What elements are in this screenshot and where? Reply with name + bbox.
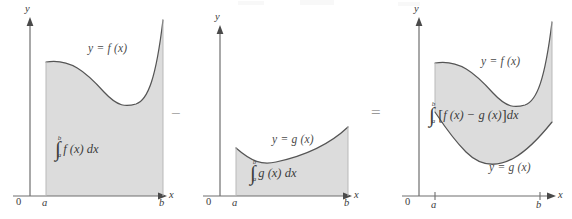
y-axis-arrowhead — [27, 17, 34, 26]
integrand-diff: f (x) − g (x) — [443, 108, 501, 123]
lower-limit: a — [253, 176, 257, 183]
curve-label-f-top: y = f (x) — [481, 55, 520, 67]
tick-label-b: b — [159, 197, 164, 208]
origin-label: 0 — [16, 196, 21, 207]
y-axis-arrowhead — [217, 25, 224, 34]
tick-label-b: b — [344, 197, 349, 208]
y-axis-label: y — [414, 3, 419, 14]
lower-limit: a — [432, 118, 436, 125]
tick-label-a: a — [431, 199, 436, 210]
curve-label-g-bottom: y = g (x) — [489, 161, 531, 173]
tick-label-a: a — [232, 197, 237, 208]
tick-label-a: a — [42, 197, 47, 208]
equals-operator: = — [371, 104, 381, 121]
upper-limit: b — [432, 101, 436, 108]
integral-diff: ∫ba[f (x) − g (x)]dx — [429, 105, 518, 125]
lower-limit: a — [58, 152, 62, 159]
integral-limits: ba — [432, 108, 436, 123]
y-axis-label: y — [25, 3, 30, 14]
tick-label-b: b — [536, 199, 541, 210]
integrand-g: g (x) dx — [258, 166, 296, 181]
curve-label-g: y = g (x) — [272, 133, 314, 145]
integral-limits: ba — [58, 142, 62, 157]
y-axis-arrowhead — [416, 17, 423, 26]
origin-label: 0 — [206, 196, 211, 207]
integral-g: ∫bag (x) dx — [250, 163, 297, 183]
minus-operator: − — [171, 105, 181, 122]
x-axis-label: x — [169, 189, 174, 200]
integrand-f: f (x) dx — [63, 142, 98, 157]
origin-label: 0 — [405, 196, 410, 207]
upper-limit: b — [58, 135, 62, 142]
integral-limits: ba — [253, 166, 257, 181]
curve-label-f: y = f (x) — [88, 42, 127, 54]
x-axis-arrowhead — [547, 193, 556, 200]
integral-f: ∫baf (x) dx — [55, 139, 100, 159]
x-axis-label: x — [558, 189, 563, 200]
x-axis-label: x — [354, 189, 359, 200]
y-axis-label: y — [215, 11, 220, 22]
differential: dx — [507, 108, 519, 123]
upper-limit: b — [253, 159, 257, 166]
